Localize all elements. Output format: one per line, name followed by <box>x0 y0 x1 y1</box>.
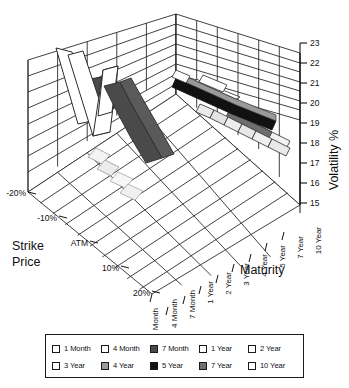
legend-row: 3 Year 4 Year 5 Year 7 Year 10 Year <box>52 357 297 374</box>
strike-tick: -10% <box>37 213 57 223</box>
legend-item-4-month[interactable]: 4 Month <box>101 344 150 353</box>
volatility-tick: 16 <box>310 178 320 188</box>
maturity-tick: 4 Month <box>170 299 179 328</box>
maturity-tick: 7 Year <box>296 236 305 259</box>
maturity-tick: 7 Month <box>188 290 197 319</box>
strike-tick: -20% <box>6 188 26 198</box>
volatility-tick: 22 <box>310 58 320 68</box>
volatility-tick: 18 <box>310 138 320 148</box>
legend-item-5-year[interactable]: 5 Year <box>150 361 199 370</box>
maturity-tick: 2 Year <box>224 272 233 295</box>
volatility-tick: 23 <box>310 38 320 48</box>
volatility-surface-chart: 23 22 21 20 19 18 17 16 15 Volatility % … <box>0 0 349 388</box>
legend-item-2-year[interactable]: 2 Year <box>248 344 297 353</box>
legend-label: 5 Year <box>162 361 183 370</box>
volatility-tick: 19 <box>310 118 320 128</box>
strike-axis-title-line1: Strike <box>12 239 44 253</box>
legend-swatch-icon <box>101 362 109 370</box>
legend-label: 7 Year <box>211 361 232 370</box>
legend-swatch-icon <box>199 345 207 353</box>
maturity-axis-title: Maturity <box>240 263 285 277</box>
legend-item-10-year[interactable]: 10 Year <box>248 361 297 370</box>
legend-swatch-icon <box>52 345 60 353</box>
legend-swatch-icon <box>101 345 109 353</box>
legend-item-1-month[interactable]: 1 Month <box>52 344 101 353</box>
volatility-axis-title: Volatility % <box>327 130 341 190</box>
volatility-tick: 17 <box>310 158 320 168</box>
legend-swatch-icon <box>150 362 158 370</box>
maturity-tick: 1 Year <box>206 281 215 304</box>
legend-label: 4 Month <box>113 344 140 353</box>
legend-item-7-year[interactable]: 7 Year <box>199 361 248 370</box>
legend-label: 1 Month <box>64 344 91 353</box>
legend-swatch-icon <box>248 362 256 370</box>
strike-tick: 10% <box>102 263 119 273</box>
legend-swatch-icon <box>150 345 158 353</box>
legend-item-4-year[interactable]: 4 Year <box>101 361 150 370</box>
plot-area: 23 22 21 20 19 18 17 16 15 Volatility % … <box>0 0 349 330</box>
legend-label: 4 Year <box>113 361 134 370</box>
legend-label: 3 Year <box>64 361 85 370</box>
legend-item-3-year[interactable]: 3 Year <box>52 361 101 370</box>
volatility-tick: 15 <box>310 198 320 208</box>
legend-swatch-icon <box>248 345 256 353</box>
legend-item-1-year[interactable]: 1 Year <box>199 344 248 353</box>
volatility-axis-ticklabels: 23 22 21 20 19 18 17 16 15 <box>310 38 320 208</box>
legend-label: 2 Year <box>260 344 281 353</box>
legend-label: 1 Year <box>211 344 232 353</box>
legend-swatch-icon <box>52 362 60 370</box>
legend-row: 1 Month 4 Month 7 Month 1 Year 2 Year <box>52 340 297 357</box>
volatility-tick: 20 <box>310 98 320 108</box>
strike-tick: ATM <box>71 238 88 248</box>
maturity-tick: 1 Month <box>151 308 160 330</box>
strike-axis-title-line2: Price <box>12 255 41 269</box>
chart-legend: 1 Month 4 Month 7 Month 1 Year 2 Year <box>45 334 304 378</box>
legend-swatch-icon <box>199 362 207 370</box>
legend-item-7-month[interactable]: 7 Month <box>150 344 199 353</box>
volatility-tick: 21 <box>310 78 320 88</box>
strike-tick: 20% <box>133 288 150 298</box>
legend-label: 7 Month <box>162 344 189 353</box>
maturity-tick: 10 Year <box>314 227 323 254</box>
volatility-axis <box>300 43 307 205</box>
legend-label: 10 Year <box>260 361 285 370</box>
